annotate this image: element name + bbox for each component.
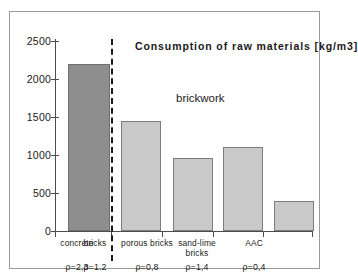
bar-sand-lime-bricks: [223, 147, 263, 231]
bar-aac: [274, 201, 314, 231]
x-category-label-aac: AAC: [220, 239, 288, 249]
x-category-label-aac-line1: AAC: [220, 239, 288, 249]
x-axis-line: [55, 231, 313, 232]
density-label-aac: ρ=0,4: [220, 262, 288, 272]
y-tick-label-0: 0: [13, 225, 51, 237]
chart-title: Consumption of raw materials [kg/m3]: [135, 40, 358, 52]
x-tick-mark-0: [55, 232, 56, 237]
y-tick-label-2500: 2500: [13, 35, 51, 47]
bar-porous-bricks: [173, 158, 213, 231]
x-tick-mark-5: [312, 232, 313, 237]
plot-area: [56, 41, 312, 231]
x-tick-mark-2: [162, 232, 163, 237]
brickwork-group-label: brickwork: [176, 92, 225, 104]
chart-figure: 2500 2000 1500 1000 500 0: [9, 11, 320, 269]
y-tick-label-500: 500: [13, 187, 51, 199]
y-tick-label-2000: 2000: [13, 73, 51, 85]
bar-bricks: [121, 121, 161, 231]
y-tick-label-1000: 1000: [13, 149, 51, 161]
group-divider-dashed-line: [111, 39, 113, 261]
x-category-label-sand-lime-bricks-line2: bricks: [163, 249, 231, 259]
y-axis-tick-labels: 2500 2000 1500 1000 500 0: [10, 12, 55, 270]
x-tick-mark-3: [213, 232, 214, 237]
y-tick-label-1500: 1500: [13, 111, 51, 123]
x-tick-mark-4: [263, 232, 264, 237]
bar-concrete: [68, 64, 110, 231]
